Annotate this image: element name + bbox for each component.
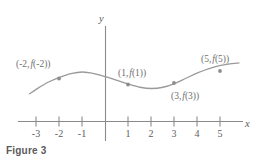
point-label-prefix: (-2,	[16, 59, 29, 70]
point-label-prefix: (5,	[201, 54, 211, 65]
x-tick-label: 2	[149, 128, 154, 139]
x-tick-label: -1	[78, 128, 86, 139]
function-graph: x y -3 -2 -1 1 2 3 4 5 (-2,f(-2)) (1,f(1…	[0, 0, 261, 165]
x-tick-label: 5	[218, 128, 223, 139]
figure-caption: Figure 3	[6, 145, 47, 156]
data-point	[218, 69, 222, 73]
data-point	[126, 83, 130, 87]
figure-container: x y -3 -2 -1 1 2 3 4 5 (-2,f(-2)) (1,f(1…	[0, 0, 261, 165]
x-tick-labels: -3 -2 -1 1 2 3 4 5	[32, 128, 223, 139]
point-label-suffix: (3))	[185, 91, 199, 102]
x-axis	[18, 117, 243, 127]
data-point	[172, 81, 176, 85]
x-tick-label: 3	[172, 128, 177, 139]
point-label-prefix: (3,	[171, 91, 181, 102]
point-label-suffix: (1))	[132, 68, 146, 79]
x-axis-label: x	[244, 118, 250, 129]
x-tick-label: -2	[55, 128, 63, 139]
data-point	[57, 77, 61, 81]
y-axis-label: y	[98, 13, 104, 24]
point-labels: (-2,f(-2)) (1,f(1)) (3,f(3)) (5,f(5))	[16, 54, 229, 102]
point-label-suffix: (-2))	[33, 59, 50, 70]
point-label-1: (1,f(1))	[118, 68, 146, 79]
x-tick-label: 4	[195, 128, 200, 139]
point-label-suffix: (5))	[215, 54, 229, 65]
x-tick-label: 1	[126, 128, 131, 139]
point-label-neg2: (-2,f(-2))	[16, 59, 51, 70]
point-label-3: (3,f(3))	[171, 91, 199, 102]
point-label-prefix: (1,	[118, 68, 128, 79]
point-label-5: (5,f(5))	[201, 54, 229, 65]
x-tick-label: -3	[32, 128, 40, 139]
